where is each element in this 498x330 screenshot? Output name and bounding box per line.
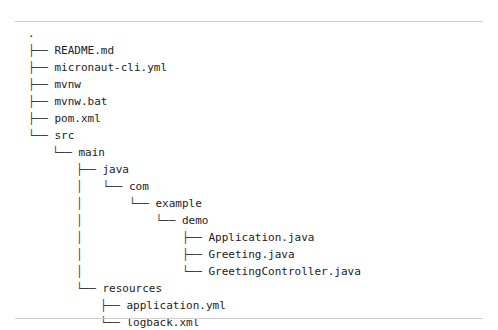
tree-line: └── logback.xml: [0, 314, 498, 330]
tree-branch-connector: └──: [52, 146, 79, 159]
tree-line: ├── pom.xml: [0, 110, 498, 127]
tree-branch-connector: ├──: [100, 299, 127, 312]
tree-node-label[interactable]: main: [79, 146, 106, 159]
tree-line: └── main: [0, 144, 498, 161]
tree-line: │ └── demo: [0, 212, 498, 229]
tree-node-label[interactable]: com: [129, 180, 149, 193]
tree-node-label[interactable]: Application.java: [208, 231, 314, 244]
tree-line: └── src: [0, 127, 498, 144]
tree-node-label[interactable]: resources: [103, 282, 163, 295]
tree-branch-connector: │ └──: [76, 214, 182, 227]
directory-tree: .├── README.md├── micronaut-cli.yml├── m…: [0, 25, 498, 330]
tree-branch-connector: ├──: [76, 163, 103, 176]
tree-line: │ ├── Application.java: [0, 229, 498, 246]
tree-node-label[interactable]: example: [155, 197, 201, 210]
tree-line: ├── mvnw: [0, 76, 498, 93]
directory-tree-page: .├── README.md├── micronaut-cli.yml├── m…: [0, 0, 498, 330]
tree-line: ├── micronaut-cli.yml: [0, 59, 498, 76]
tree-branch-connector: │ └──: [76, 197, 155, 210]
tree-branch-connector: │ └──: [76, 265, 208, 278]
tree-line: │ ├── Greeting.java: [0, 246, 498, 263]
tree-node-label[interactable]: README.md: [55, 44, 115, 57]
tree-line: ├── application.yml: [0, 297, 498, 314]
tree-branch-connector: ├──: [28, 78, 55, 91]
tree-branch-connector: │ └──: [76, 180, 129, 193]
tree-branch-connector: ├──: [28, 95, 55, 108]
tree-branch-connector: ├──: [28, 44, 55, 57]
tree-line: │ └── com: [0, 178, 498, 195]
tree-node-label[interactable]: java: [103, 163, 130, 176]
top-divider: [15, 21, 483, 22]
tree-branch-connector: └──: [28, 129, 55, 142]
tree-node-label[interactable]: GreetingController.java: [208, 265, 360, 278]
tree-node-label[interactable]: micronaut-cli.yml: [55, 61, 168, 74]
tree-node-label[interactable]: application.yml: [127, 299, 226, 312]
tree-line: ├── java: [0, 161, 498, 178]
tree-node-label[interactable]: mvnw.bat: [55, 95, 108, 108]
tree-node-label[interactable]: pom.xml: [55, 112, 101, 125]
tree-node-label[interactable]: Greeting.java: [208, 248, 294, 261]
bottom-divider: [15, 318, 483, 319]
tree-node-label[interactable]: mvnw: [55, 78, 82, 91]
tree-branch-connector: └──: [76, 282, 103, 295]
tree-branch-connector: ├──: [28, 61, 55, 74]
tree-branch-connector: │ ├──: [76, 231, 208, 244]
tree-branch-connector: ├──: [28, 112, 55, 125]
tree-node-label[interactable]: .: [28, 27, 35, 40]
tree-line: │ └── GreetingController.java: [0, 263, 498, 280]
tree-branch-connector: │ ├──: [76, 248, 208, 261]
tree-node-label[interactable]: demo: [182, 214, 209, 227]
tree-line: .: [0, 25, 498, 42]
tree-line: └── resources: [0, 280, 498, 297]
tree-line: ├── README.md: [0, 42, 498, 59]
tree-line: ├── mvnw.bat: [0, 93, 498, 110]
tree-node-label[interactable]: src: [55, 129, 75, 142]
tree-line: │ └── example: [0, 195, 498, 212]
